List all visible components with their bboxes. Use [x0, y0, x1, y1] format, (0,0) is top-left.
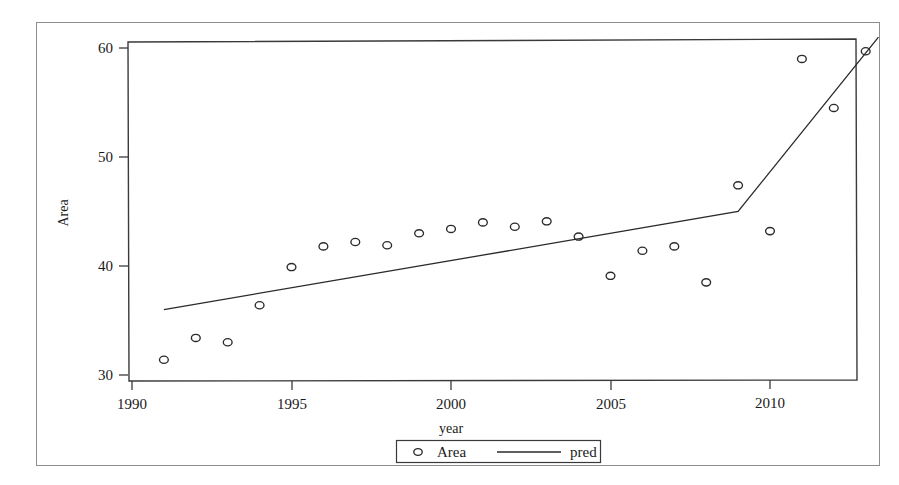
- data-point-marker: [542, 218, 551, 225]
- x-tick-label-1990: 1990: [117, 396, 147, 412]
- data-point-marker: [702, 279, 711, 286]
- data-point-marker: [638, 247, 647, 254]
- chart-figure: 60 50 40 30 1990 1995 2000 2005 2010: [0, 0, 899, 485]
- x-tick-label-2010: 2010: [755, 395, 785, 411]
- data-point-marker: [670, 243, 679, 250]
- chart-screenshot: 60 50 40 30 1990 1995 2000 2005 2010: [0, 0, 899, 485]
- y-axis-ticks: [119, 48, 128, 375]
- legend-open-circle-marker-icon: [414, 449, 422, 456]
- plot-canvas: 60 50 40 30 1990 1995 2000 2005 2010: [0, 0, 899, 485]
- y-tick-label-30: 30: [98, 367, 113, 383]
- data-point-marker: [287, 263, 296, 270]
- pred-line-series: [164, 37, 879, 310]
- legend-label-area: Area: [437, 444, 466, 460]
- data-point-marker: [829, 104, 838, 111]
- data-point-marker: [798, 55, 807, 62]
- legend-label-pred: pred: [570, 444, 597, 460]
- x-axis-title: year: [439, 421, 463, 436]
- y-tick-label-60: 60: [98, 40, 113, 56]
- data-point-marker: [255, 302, 264, 309]
- x-tick-label-1995: 1995: [277, 396, 307, 412]
- data-point-marker: [606, 272, 615, 279]
- y-tick-label-40: 40: [98, 258, 113, 274]
- area-scatter-series: [160, 48, 871, 364]
- y-axis-title: Area: [56, 199, 71, 227]
- data-point-marker: [319, 243, 328, 250]
- x-tick-label-2000: 2000: [436, 396, 466, 412]
- data-point-marker: [383, 242, 392, 249]
- x-axis-tick-labels: 1990 1995 2000 2005 2010: [117, 395, 785, 412]
- y-axis-tick-labels: 60 50 40 30: [98, 40, 113, 383]
- y-tick-label-50: 50: [98, 149, 113, 165]
- plot-frame: [128, 39, 857, 381]
- data-point-marker: [510, 223, 519, 230]
- data-point-marker: [415, 230, 424, 237]
- data-point-marker: [479, 219, 488, 226]
- data-point-marker: [351, 238, 360, 245]
- x-tick-label-2005: 2005: [596, 396, 626, 412]
- data-point-marker: [191, 334, 200, 341]
- data-point-marker: [766, 228, 775, 235]
- data-point-marker: [223, 339, 232, 346]
- legend: Area pred: [397, 441, 601, 463]
- data-point-marker: [160, 356, 169, 363]
- data-point-marker: [734, 182, 743, 189]
- data-point-marker: [447, 225, 456, 232]
